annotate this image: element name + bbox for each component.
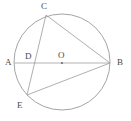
point-label-O: O [58,51,65,60]
point-label-B: B [117,58,123,67]
center-dot [61,62,63,64]
point-label-E: E [17,101,23,110]
segment-chord-EB [27,63,110,95]
segment-chord-CB [46,15,110,63]
geometry-figure: A B C D E O [0,0,131,121]
point-label-A: A [5,58,12,67]
point-label-D: D [25,52,32,61]
point-label-C: C [41,2,47,11]
